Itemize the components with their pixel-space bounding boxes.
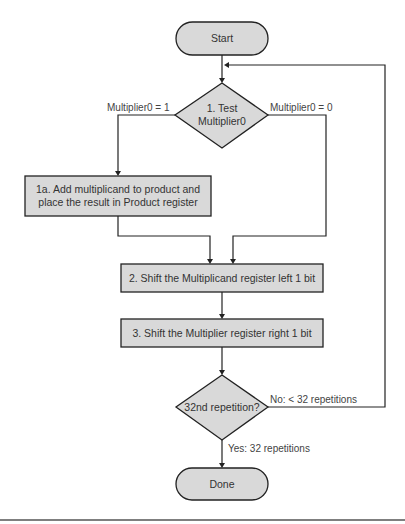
multiplier-zero-label: Multiplier0 = 0 [270, 102, 333, 113]
arrow-head-icon [219, 463, 225, 468]
multiplier-one-label: Multiplier0 = 1 [107, 102, 170, 113]
start-label: Start [211, 32, 233, 44]
no-branch-label: No: < 32 repetitions [270, 394, 357, 405]
yes-branch-label: Yes: 32 repetitions [228, 443, 310, 454]
arrow-head-icon [224, 62, 229, 68]
arrow-head-icon [207, 259, 213, 264]
repetition-decision: 32nd repetition? [176, 375, 268, 440]
shift-left-label: 2. Shift the Multiplicand register left … [129, 272, 315, 284]
edge-test-shift-left [233, 115, 326, 260]
add-label-line1: 1a. Add multiplicand to product and [36, 183, 200, 195]
arrow-head-icon [230, 259, 236, 264]
arrow-head-icon [219, 314, 225, 319]
start-node: Start [176, 22, 268, 55]
repeat-label: 32nd repetition? [184, 401, 259, 413]
test-label-line1: 1. Test [207, 102, 238, 114]
add-label-line2: place the result in Product register [38, 196, 198, 208]
add-multiplicand-process: 1a. Add multiplicand to product and plac… [25, 176, 211, 216]
test-label-line2: Multiplier0 [198, 115, 246, 127]
flowchart-canvas: Start 1. Test Multiplier0 Multiplier0 = … [0, 0, 405, 524]
edge-add-shift-left [118, 216, 210, 260]
done-label: Done [209, 478, 234, 490]
shift-multiplier-process: 3. Shift the Multiplier register right 1… [121, 319, 323, 347]
test-multiplier-decision: 1. Test Multiplier0 [175, 83, 268, 148]
edge-test-add [118, 115, 175, 172]
shift-multiplicand-process: 2. Shift the Multiplicand register left … [121, 264, 323, 292]
done-node: Done [176, 468, 268, 500]
shift-right-label: 3. Shift the Multiplier register right 1… [132, 327, 311, 339]
arrow-head-icon [115, 171, 121, 176]
